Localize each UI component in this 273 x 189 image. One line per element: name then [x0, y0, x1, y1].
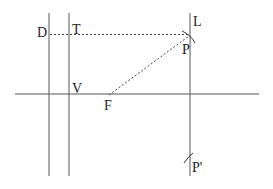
dotted-line-FP [109, 36, 189, 95]
label-D: D [37, 25, 47, 40]
parabola-construction-diagram: D T L P V F P' [0, 0, 273, 189]
label-F: F [104, 98, 112, 113]
label-V: V [72, 81, 82, 96]
label-L: L [193, 14, 202, 29]
label-P-prime: P' [192, 160, 202, 175]
diagram-canvas: D T L P V F P' [0, 0, 273, 189]
label-T: T [72, 22, 81, 37]
label-P: P [182, 42, 190, 57]
